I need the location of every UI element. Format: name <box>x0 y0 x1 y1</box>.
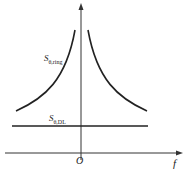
dl-line-label: Sθ,DL <box>49 113 66 125</box>
x-axis-arrow-icon <box>176 151 183 156</box>
ring-curve-right <box>88 30 147 111</box>
y-axis-arrow-icon <box>79 3 84 10</box>
x-axis-label: f <box>173 157 176 169</box>
ring-curve-label: Sθ,ring <box>44 53 63 65</box>
origin-label: O <box>76 155 83 166</box>
ring-curve-left <box>16 30 75 111</box>
diagram-canvas <box>0 0 189 176</box>
